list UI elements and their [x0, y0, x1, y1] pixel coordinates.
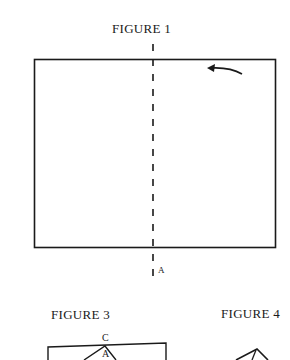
- figure-3-title: FIGURE 3: [51, 307, 110, 323]
- figure-3-label-c: C: [102, 332, 109, 343]
- fold-line-label-a: A: [158, 265, 165, 275]
- figure-3-label-a: A: [102, 348, 109, 359]
- figure-1-title: FIGURE 1: [112, 21, 171, 37]
- curved-arrow-icon: [207, 64, 242, 74]
- figure-4-title: FIGURE 4: [221, 306, 280, 322]
- figure-4-drawing: [236, 349, 268, 360]
- diagram-canvas: FIGURE 1 A FIGURE 3 FIGURE 4 C A: [0, 0, 290, 360]
- figure-1-paper-rectangle: [35, 60, 276, 248]
